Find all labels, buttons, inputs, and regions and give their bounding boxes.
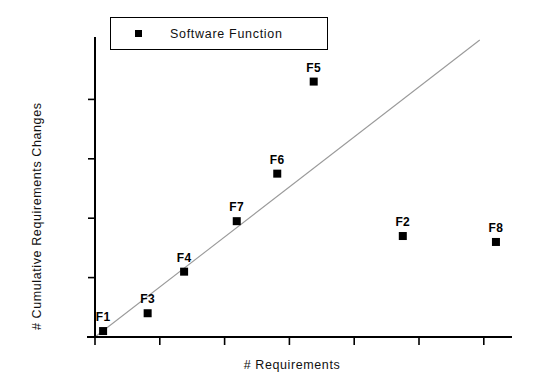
data-marker-f5[interactable] xyxy=(310,78,318,86)
data-marker-f4[interactable] xyxy=(180,268,188,276)
data-marker-f8[interactable] xyxy=(492,238,500,246)
x-axis-title: # Requirements xyxy=(0,358,536,372)
data-point-label-f1: F1 xyxy=(96,310,111,324)
data-marker-f2[interactable] xyxy=(399,232,407,240)
data-point-label-f4: F4 xyxy=(177,251,192,265)
legend-marker-icon xyxy=(135,30,142,37)
y-axis-title: # Cumulative Requirements Changes xyxy=(30,102,44,330)
data-point-label-f3: F3 xyxy=(140,292,155,306)
data-marker-f3[interactable] xyxy=(144,309,152,317)
data-point-label-f6: F6 xyxy=(270,153,285,167)
legend: Software Function xyxy=(110,17,328,50)
data-point-label-f2: F2 xyxy=(395,215,410,229)
data-marker-f1[interactable] xyxy=(99,327,107,335)
legend-label: Software Function xyxy=(170,27,283,41)
data-point-label-f8: F8 xyxy=(489,221,504,235)
data-point-label-f5: F5 xyxy=(306,61,321,75)
data-markers-group xyxy=(99,78,500,335)
plot-area xyxy=(0,0,536,387)
data-marker-f7[interactable] xyxy=(233,217,241,225)
scatter-chart: # Cumulative Requirements Changes # Requ… xyxy=(0,0,536,387)
data-marker-f6[interactable] xyxy=(273,170,281,178)
data-point-label-f7: F7 xyxy=(229,200,244,214)
